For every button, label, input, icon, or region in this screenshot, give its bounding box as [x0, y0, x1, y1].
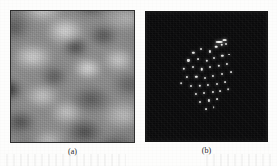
- panel-a-caption: (a): [10, 147, 135, 157]
- diffraction-spot: [213, 57, 215, 59]
- diffraction-spot: [200, 48, 202, 50]
- diffraction-spot: [199, 101, 201, 103]
- diffraction-spot: [204, 77, 206, 79]
- diffraction-spot: [180, 82, 182, 84]
- diffraction-spot: [224, 81, 226, 83]
- diffraction-spot: [209, 66, 211, 68]
- figure-root: (a) (b): [0, 0, 277, 166]
- diffraction-spot: [229, 54, 231, 56]
- diffraction-spot: [203, 92, 205, 94]
- stm-topography-image: [10, 10, 135, 143]
- diffraction-spot: [216, 83, 218, 85]
- diffraction-spot: [213, 107, 215, 109]
- diffraction-spot: [221, 73, 223, 75]
- diffraction-spot: [197, 58, 199, 60]
- diffraction-spot: [230, 71, 232, 73]
- diffraction-spot: [205, 108, 207, 110]
- diffraction-pattern-image: [145, 11, 268, 142]
- diffraction-spot: [216, 98, 218, 100]
- image-vignette: [11, 11, 134, 142]
- diffraction-spot: [190, 85, 192, 87]
- panel-b-container: [145, 11, 268, 142]
- diffraction-spot: [215, 46, 218, 49]
- diffraction-spot: [222, 39, 227, 41]
- diffraction-spot: [216, 41, 223, 43]
- diffraction-spot: [192, 66, 194, 68]
- diffraction-spot: [225, 43, 227, 45]
- panel-b-caption: (b): [145, 146, 268, 156]
- central-halo: [146, 12, 267, 141]
- diffraction-spot: [227, 89, 229, 91]
- panel-a-container: [10, 10, 135, 143]
- diffraction-spot: [219, 90, 221, 92]
